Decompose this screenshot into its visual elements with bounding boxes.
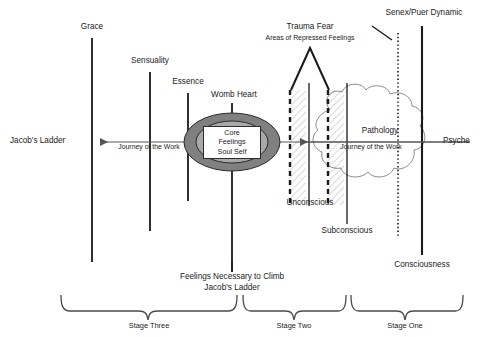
label-sensuality: Sensuality [131,56,169,65]
senex-puer-leader-line [372,26,392,40]
trauma-pointer [291,48,329,90]
label-subconscious: Subconscious [322,226,373,235]
label-psyche-axis: Psyche [443,136,470,145]
core-line-2: Feelings [207,137,257,146]
label-grace: Grace [81,22,103,31]
label-consciousness: Consciousness [394,260,450,269]
core-line-3: Soul Self [207,147,257,156]
brace-stage-one [351,295,463,320]
label-pathology: Pathology [362,126,398,135]
label-journey-of-the-work-left: Journey of the Work [118,143,180,151]
label-unconscious: Unconscious [287,198,334,207]
brace-stage-two [243,295,346,320]
label-trauma-fear: Trauma Fear [286,22,333,31]
brace-stage-three [61,295,237,320]
label-feelings-necessary-line-2: Jacob's Ladder [204,283,259,292]
core-line-1: Core [207,128,257,137]
label-stage-one: Stage One [387,322,422,330]
repressed-band-unconscious [289,90,306,205]
psyche-stage-diagram: Grace Sensuality Essence Womb Heart Jaco… [0,0,481,337]
label-stage-three: Stage Three [129,322,170,330]
label-jacobs-ladder-axis: Jacob's Ladder [10,136,65,145]
label-feelings-necessary-line-1: Feelings Necessary to Climb [180,272,284,281]
label-journey-of-the-work-right: Journey of the Work [340,143,402,151]
label-senex-puer-dynamic: Senex/Puer Dynamic [386,8,463,17]
label-areas-of-repressed-feelings: Areas of Repressed Feelings [266,34,355,42]
label-essence: Essence [172,77,203,86]
label-womb-heart: Womb Heart [211,90,257,99]
label-stage-two: Stage Two [277,322,312,330]
core-feelings-soul-self-box: Core Feelings Soul Self [203,126,261,159]
